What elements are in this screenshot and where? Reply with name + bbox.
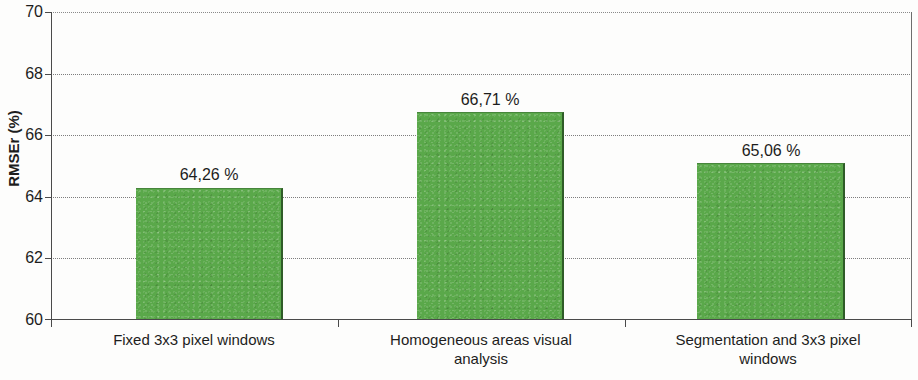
plot-area: 64,26 % 66,71 % 65,06 % [51, 12, 912, 320]
x-category-label-line: Segmentation and 3x3 pixel [633, 330, 903, 349]
x-category-label-line: Fixed 3x3 pixel windows [54, 330, 334, 349]
x-category-label-line: windows [633, 349, 903, 368]
bar-homogeneous-areas-visual-analysis [417, 112, 564, 319]
x-category-label-2: Homogeneous areas visual analysis [346, 330, 616, 368]
plot-right-border [911, 12, 912, 320]
y-tick-label: 68 [3, 65, 43, 83]
y-axis-line [51, 12, 52, 320]
y-axis-tick-labels: 70 68 66 64 62 60 [0, 12, 43, 320]
x-tick-mark [625, 320, 626, 327]
bar-fixed-3x3-pixel-windows [136, 188, 283, 319]
x-axis-category-labels: Fixed 3x3 pixel windows Homogeneous area… [51, 330, 912, 380]
y-tick-label: 60 [3, 311, 43, 329]
bar-value-label: 66,71 % [461, 91, 520, 109]
x-category-label-1: Fixed 3x3 pixel windows [54, 330, 334, 349]
plot-top-gridline [51, 12, 912, 14]
bar-value-label: 65,06 % [742, 142, 801, 160]
y-tick-label: 66 [3, 126, 43, 144]
y-tick-label: 64 [3, 188, 43, 206]
y-tick-label: 70 [3, 3, 43, 21]
bar-segmentation-and-3x3-pixel-windows [697, 163, 845, 319]
gridline-68 [51, 74, 912, 75]
x-axis-line [51, 319, 912, 320]
x-tick-mark [51, 320, 52, 327]
y-tick-label: 62 [3, 249, 43, 267]
bar-value-label: 64,26 % [180, 166, 239, 184]
x-tick-mark [338, 320, 339, 327]
y-tick-mark [45, 258, 51, 259]
bar-chart: RMSEr (%) 70 68 66 64 62 60 64,26 % 66,7… [0, 0, 918, 380]
y-tick-mark [45, 135, 51, 136]
x-category-label-3: Segmentation and 3x3 pixel windows [633, 330, 903, 368]
x-category-label-line: analysis [346, 349, 616, 368]
x-tick-mark [911, 320, 912, 327]
y-tick-mark [45, 74, 51, 75]
y-tick-mark [45, 197, 51, 198]
x-category-label-line: Homogeneous areas visual [346, 330, 616, 349]
y-tick-mark [45, 12, 51, 13]
